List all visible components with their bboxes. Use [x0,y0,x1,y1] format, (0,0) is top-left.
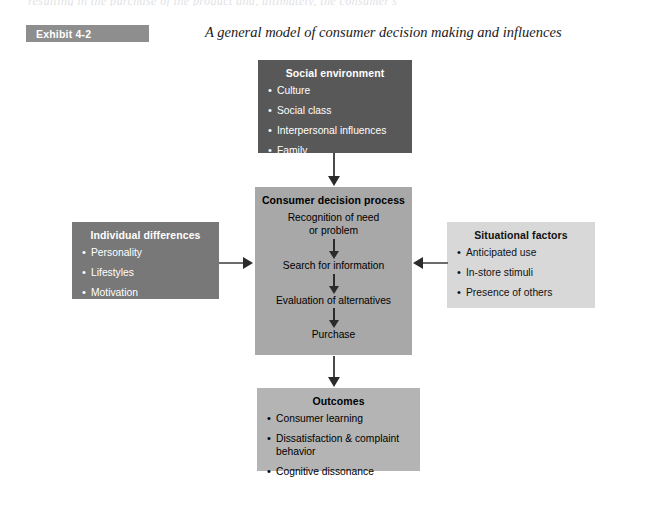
list-item: Presence of others [457,287,585,300]
social-environment-title: Social environment [268,67,402,79]
list-item: Social class [268,105,402,118]
arrow-down-icon [328,176,340,186]
consumer-decision-process-box: Consumer decision process Recognition of… [255,187,412,355]
arrow-left-icon [413,257,423,269]
list-item: Consumer learning [267,413,410,426]
list-item: Cognitive dissonance [267,466,410,479]
process-step-recognition-line2: or problem [261,225,406,238]
arrow-down-icon [261,238,406,260]
social-environment-list: Culture Social class Interpersonal influ… [268,85,402,157]
process-step-purchase: Purchase [261,329,406,342]
arrow-down-icon [261,307,406,329]
list-item: Anticipated use [457,247,585,260]
connector-individual-differences-to-process-line [219,262,244,264]
outcomes-box: Outcomes Consumer learning Dissatisfacti… [257,388,420,471]
process-step-search: Search for information [261,260,406,273]
arrow-right-icon [243,257,253,269]
list-item: Interpersonal influences [268,125,402,138]
list-item: Dissatisfaction & complaint behavior [267,433,410,459]
arrow-down-icon [261,273,406,295]
page-bleed-text: resulting in the purchase of the product… [28,0,628,6]
connector-social-environment-to-process-line [333,153,335,177]
situational-factors-box: Situational factors Anticipated use In-s… [447,222,595,308]
outcomes-title: Outcomes [267,395,410,407]
individual-differences-list: Personality Lifestyles Motivation [82,247,209,300]
process-step-evaluation: Evaluation of alternatives [261,295,406,308]
individual-differences-box: Individual differences Personality Lifes… [72,222,219,299]
list-item: Culture [268,85,402,98]
process-step-recognition-line1: Recognition of need [261,212,406,225]
connector-process-to-outcomes-line [333,356,335,378]
social-environment-box: Social environment Culture Social class … [258,60,412,153]
list-item: Personality [82,247,209,260]
exhibit-label: Exhibit 4-2 [26,25,149,42]
situational-factors-list: Anticipated use In-store stimuli Presenc… [457,247,585,300]
outcomes-list: Consumer learning Dissatisfaction & comp… [267,413,410,478]
list-item: Lifestyles [82,267,209,280]
consumer-decision-process-title: Consumer decision process [261,194,406,206]
connector-situational-factors-to-process-line [423,262,448,264]
list-item: Family [268,145,402,158]
list-item: Motivation [82,287,209,300]
list-item: In-store stimuli [457,267,585,280]
arrow-down-icon [328,377,340,387]
exhibit-title: A general model of consumer decision mak… [205,24,562,41]
situational-factors-title: Situational factors [457,229,585,241]
individual-differences-title: Individual differences [82,229,209,241]
